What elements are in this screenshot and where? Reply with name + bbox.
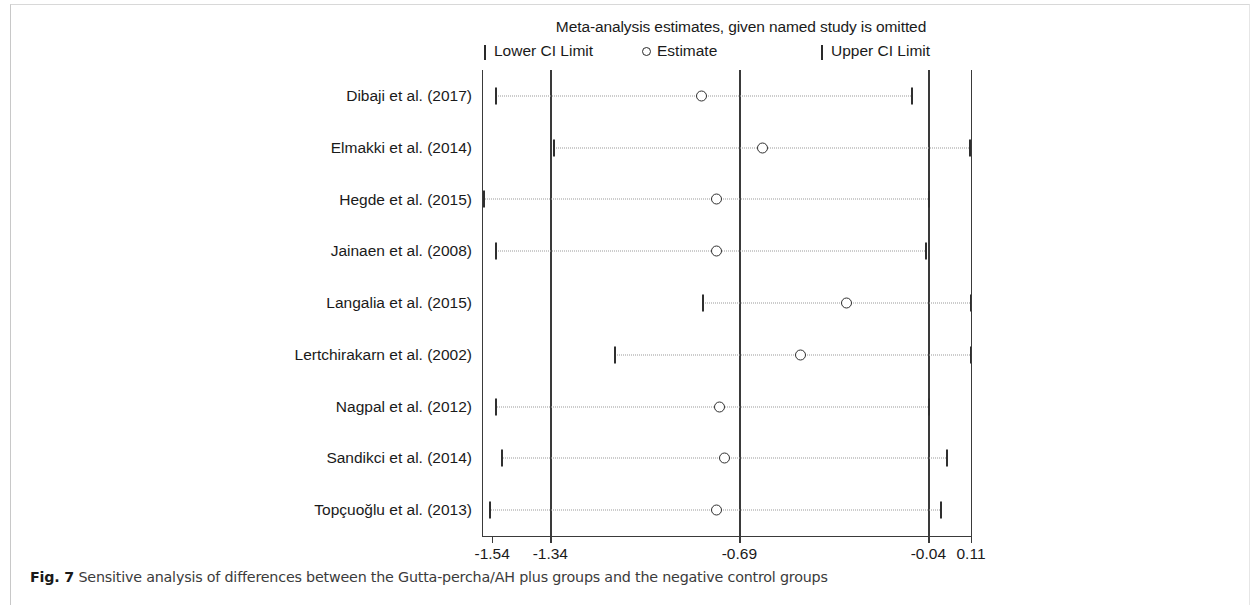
estimate-marker xyxy=(795,349,806,360)
upper-ci-marker xyxy=(928,191,930,208)
study-row xyxy=(482,484,972,536)
estimate-marker xyxy=(711,246,722,257)
upper-ci-marker xyxy=(970,294,972,311)
x-axis-tick xyxy=(739,536,740,543)
upper-ci-marker xyxy=(928,398,930,415)
estimate-marker xyxy=(719,453,730,464)
confidence-interval-line xyxy=(483,199,928,200)
circle-marker-icon xyxy=(642,47,651,56)
legend-label-upper-ci: Upper CI Limit xyxy=(831,42,930,60)
chart-legend: Lower CI Limit Estimate Upper CI Limit xyxy=(481,42,981,64)
study-row xyxy=(482,174,972,226)
study-label: Sandikci et al. (2014) xyxy=(326,432,472,484)
x-axis-tick-label: 0.11 xyxy=(956,545,985,563)
lower-ci-marker xyxy=(495,87,497,104)
lower-ci-marker xyxy=(483,191,485,208)
study-row xyxy=(482,329,972,381)
legend-item-lower-ci: Lower CI Limit xyxy=(484,42,593,60)
estimate-marker xyxy=(696,90,707,101)
x-axis-tick-label: -1.34 xyxy=(533,545,568,563)
legend-item-estimate: Estimate xyxy=(642,42,717,60)
x-axis-tick xyxy=(928,536,929,543)
study-label: Topçuoğlu et al. (2013) xyxy=(314,484,472,536)
study-label: Hegde et al. (2015) xyxy=(339,174,472,226)
figure-caption-text: Sensitive analysis of differences betwee… xyxy=(74,569,828,585)
lower-ci-marker xyxy=(614,346,616,363)
estimate-marker xyxy=(841,297,852,308)
x-axis-line xyxy=(482,536,972,537)
study-label: Nagpal et al. (2012) xyxy=(336,381,472,433)
tick-marker-icon xyxy=(484,45,486,60)
study-label: Dibaji et al. (2017) xyxy=(346,70,472,122)
study-row xyxy=(482,70,972,122)
figure-caption: Fig. 7 Sensitive analysis of differences… xyxy=(30,569,1210,585)
study-row xyxy=(482,122,972,174)
lower-ci-marker xyxy=(702,294,704,311)
confidence-interval-line xyxy=(614,354,972,355)
lower-ci-marker xyxy=(553,139,555,156)
x-axis: -1.54-1.34-0.69-0.040.11 xyxy=(482,536,972,537)
confidence-interval-line xyxy=(702,302,972,303)
x-axis-tick-label: -1.54 xyxy=(475,545,510,563)
upper-ci-marker xyxy=(946,450,948,467)
x-axis-tick xyxy=(492,536,493,543)
x-axis-tick-label: -0.69 xyxy=(722,545,757,563)
upper-ci-marker xyxy=(925,243,927,260)
upper-ci-marker xyxy=(970,346,972,363)
legend-label-estimate: Estimate xyxy=(657,42,717,60)
estimate-marker xyxy=(714,401,725,412)
upper-ci-marker xyxy=(940,502,942,519)
tick-marker-icon xyxy=(821,45,823,60)
study-label: Lertchirakarn et al. (2002) xyxy=(295,329,472,381)
study-row xyxy=(482,225,972,277)
study-row xyxy=(482,432,972,484)
lower-ci-marker xyxy=(489,502,491,519)
study-labels-axis: Dibaji et al. (2017)Elmakki et al. (2014… xyxy=(0,70,472,536)
legend-label-lower-ci: Lower CI Limit xyxy=(494,42,593,60)
estimate-marker xyxy=(711,505,722,516)
study-label: Jainaen et al. (2008) xyxy=(331,225,472,277)
sensitivity-analysis-figure: Meta-analysis estimates, given named stu… xyxy=(0,0,1256,560)
lower-ci-marker xyxy=(495,243,497,260)
confidence-interval-line xyxy=(495,406,928,407)
lower-ci-marker xyxy=(501,450,503,467)
upper-ci-marker xyxy=(969,139,971,156)
plot-area xyxy=(482,70,972,536)
estimate-marker xyxy=(711,194,722,205)
study-row xyxy=(482,381,972,433)
figure-caption-label: Fig. 7 xyxy=(30,569,74,585)
upper-ci-marker xyxy=(911,87,913,104)
x-axis-tick xyxy=(971,536,972,543)
study-label: Elmakki et al. (2014) xyxy=(331,122,472,174)
study-label: Langalia et al. (2015) xyxy=(326,277,472,329)
chart-title: Meta-analysis estimates, given named stu… xyxy=(481,18,1001,36)
x-axis-tick-label: -0.04 xyxy=(911,545,946,563)
estimate-marker xyxy=(757,142,768,153)
legend-item-upper-ci: Upper CI Limit xyxy=(821,42,930,60)
study-row xyxy=(482,277,972,329)
lower-ci-marker xyxy=(495,398,497,415)
x-axis-tick xyxy=(550,536,551,543)
